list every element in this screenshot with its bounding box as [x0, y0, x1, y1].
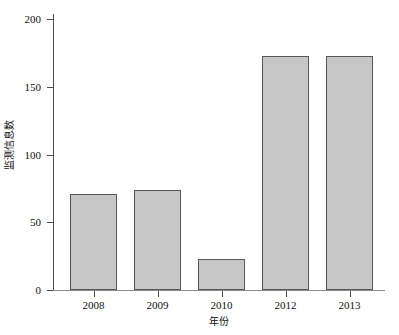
y-axis-tick	[47, 222, 53, 223]
x-axis-tick-label: 2010	[192, 300, 252, 311]
y-axis-tick	[47, 87, 53, 88]
x-axis-tick-label: 2008	[64, 300, 124, 311]
y-axis-tick-label: 200	[0, 14, 44, 25]
x-axis-tick-label: 2009	[128, 300, 188, 311]
x-axis-line	[53, 290, 385, 291]
bar-2009	[134, 190, 181, 290]
x-axis-tick-label: 2013	[320, 300, 380, 311]
x-axis-tick	[158, 291, 159, 297]
bar-2010	[198, 259, 245, 290]
y-axis-title: 监测信息数	[0, 0, 20, 290]
x-axis-tick	[94, 291, 95, 297]
y-axis-title-text: 监测信息数	[5, 120, 15, 170]
x-axis-tick	[286, 291, 287, 297]
bar-2013	[326, 56, 373, 290]
bar-2008	[70, 194, 117, 290]
bar-2012	[262, 56, 309, 290]
y-axis-tick-label: 100	[0, 149, 44, 160]
y-axis-line	[53, 14, 54, 291]
y-axis-tick-label: 150	[0, 81, 44, 92]
y-axis-tick	[47, 19, 53, 20]
x-axis-tick-label: 2012	[256, 300, 316, 311]
y-axis-tick-label: 0	[0, 285, 44, 296]
y-axis-tick-label: 50	[0, 217, 44, 228]
y-axis-tick	[47, 155, 53, 156]
x-axis-tick	[350, 291, 351, 297]
bar-chart: 监测信息数 050100150200 20082009201020122013 …	[0, 0, 399, 335]
x-axis-title: 年份	[53, 317, 385, 327]
x-axis-tick	[222, 291, 223, 297]
